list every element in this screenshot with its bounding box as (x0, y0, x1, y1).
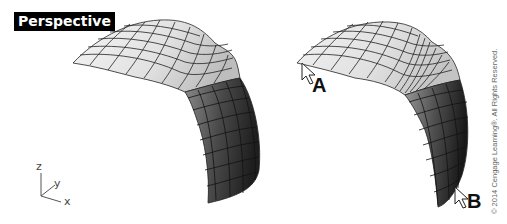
axis-label-x: x (64, 195, 71, 208)
surface-original[interactable] (73, 20, 260, 203)
viewport-perspective[interactable]: Perspective (0, 0, 507, 224)
copyright-notice: © 2014 Cengage Learning®. All Rights Res… (490, 49, 499, 214)
surface-scene (0, 0, 507, 224)
surface-modified[interactable] (297, 21, 468, 207)
marker-label-a: A (312, 74, 326, 97)
marker-label-b: B (467, 190, 481, 213)
axis-label-y: y (54, 177, 61, 190)
axis-label-z: z (36, 160, 42, 173)
